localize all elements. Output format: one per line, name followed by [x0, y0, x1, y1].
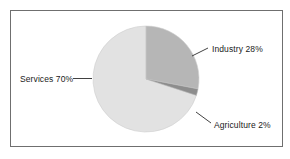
pie-slice-industry[interactable]	[146, 26, 199, 89]
pie-chart-figure: Services 70% Industry 28% Agriculture 2%	[0, 0, 290, 159]
leader-line-industry	[192, 48, 208, 56]
pie-label-industry: Industry 28%	[212, 44, 263, 54]
leader-line-agriculture	[196, 112, 211, 123]
pie-label-services: Services 70%	[20, 74, 73, 84]
pie-label-agriculture: Agriculture 2%	[214, 120, 271, 130]
